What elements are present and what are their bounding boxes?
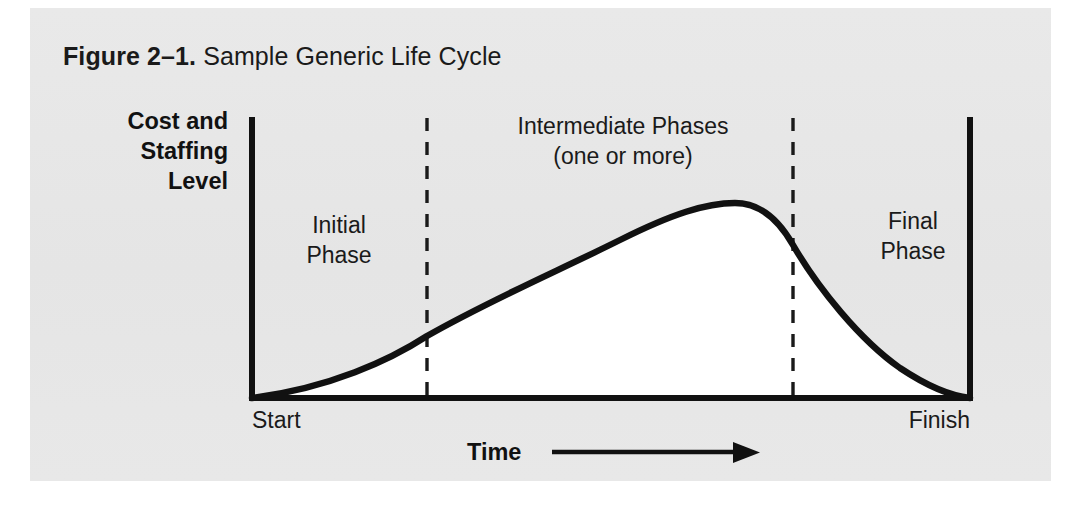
y-axis-label-line1: Cost and [127,108,228,134]
phase-label-initial-line1: Initial [312,212,366,238]
y-axis-label-line2: Staffing [141,138,228,164]
x-axis-label: Time [467,439,521,465]
phase-label-final-line1: Final [888,208,938,234]
phase-label-final-line2: Phase [880,238,945,264]
phase-label-intermediate-line1: Intermediate Phases [518,113,729,139]
y-axis-label-line3: Level [168,168,228,194]
phase-label-initial-line2: Phase [306,242,371,268]
life-cycle-chart: Cost and Staffing Level Initial Phase In… [0,0,1076,505]
x-axis-finish-label: Finish [909,407,970,433]
phase-label-intermediate-line2: (one or more) [553,143,692,169]
x-axis-start-label: Start [252,407,301,433]
right-arrow-icon [552,442,760,463]
figure-root: Figure 2–1. Sample Generic Life Cycle Co… [0,0,1076,505]
